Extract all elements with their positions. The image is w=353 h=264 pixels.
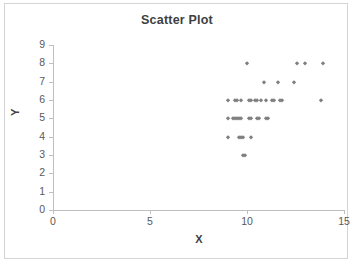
y-tick-label: 6: [23, 93, 45, 105]
data-point: [241, 135, 245, 139]
data-point: [263, 80, 267, 84]
data-point: [226, 116, 230, 120]
data-point: [276, 80, 280, 84]
chart-title: Scatter Plot: [5, 13, 349, 27]
data-point: [292, 80, 296, 84]
data-point: [280, 98, 284, 102]
data-point: [226, 135, 230, 139]
data-point: [266, 116, 270, 120]
plot-area: [53, 45, 344, 210]
data-point: [303, 61, 307, 65]
data-point: [245, 61, 249, 65]
x-tick-mark: [247, 210, 248, 214]
y-tick-mark: [49, 210, 53, 211]
data-point: [321, 61, 325, 65]
y-tick-label: 3: [23, 148, 45, 160]
x-tick-mark: [53, 210, 54, 214]
x-tick-label: 10: [232, 215, 262, 227]
y-tick-label: 0: [23, 203, 45, 215]
x-tick-mark: [150, 210, 151, 214]
x-axis-line: [53, 210, 345, 211]
data-point: [249, 116, 253, 120]
data-point: [319, 98, 323, 102]
y-tick-label: 1: [23, 185, 45, 197]
data-point: [272, 98, 276, 102]
data-point: [259, 98, 263, 102]
x-tick-label: 0: [38, 215, 68, 227]
y-tick-label: 2: [23, 166, 45, 178]
y-tick-label: 8: [23, 56, 45, 68]
y-tick-label: 4: [23, 130, 45, 142]
x-tick-mark: [344, 210, 345, 214]
data-point: [249, 98, 253, 102]
data-point: [239, 116, 243, 120]
chart-frame: Scatter Plot X Y 0510150123456789: [4, 3, 348, 259]
y-axis-title: Y: [9, 109, 21, 116]
x-axis-title: X: [53, 233, 345, 245]
y-tick-label: 9: [23, 38, 45, 50]
x-tick-label: 15: [329, 215, 353, 227]
data-point: [239, 98, 243, 102]
data-point: [265, 98, 269, 102]
data-point: [249, 135, 253, 139]
data-point: [257, 116, 261, 120]
x-tick-label: 5: [135, 215, 165, 227]
data-point: [243, 153, 247, 157]
y-tick-label: 5: [23, 111, 45, 123]
data-point: [296, 61, 300, 65]
y-tick-label: 7: [23, 75, 45, 87]
data-point: [226, 98, 230, 102]
